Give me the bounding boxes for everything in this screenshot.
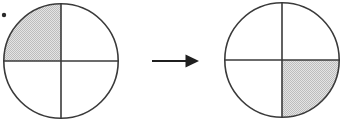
fraction-diagram-svg: [0, 0, 344, 121]
left-circle-group: [3, 3, 118, 118]
stray-dot-artifact: [2, 13, 6, 17]
right-circle-group: [225, 3, 340, 118]
diagram-canvas: Quarter-circle shading transformation Tw…: [0, 0, 344, 121]
